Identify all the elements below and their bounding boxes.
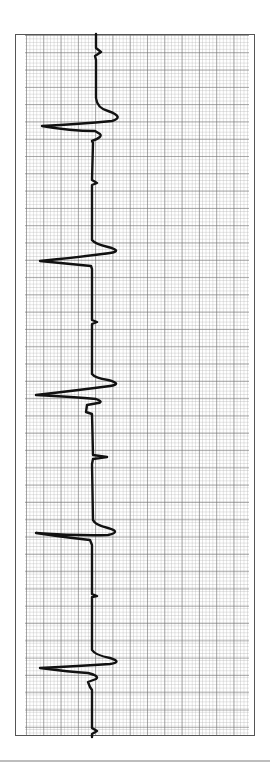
bottom-separator xyxy=(0,760,270,762)
ecg-trace xyxy=(0,0,270,767)
ecg-waveform-path xyxy=(36,34,118,737)
